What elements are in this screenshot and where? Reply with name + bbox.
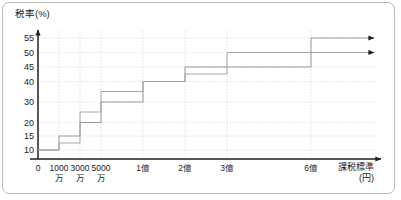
gridlines-horizontal [38, 38, 376, 150]
y-tick-40: 40 [18, 78, 34, 87]
x-tick-2oku-label: 2億 [178, 163, 192, 173]
x-axis-title-text: 課税標準 [338, 162, 374, 172]
x-tick-5000man-unit: 万 [86, 174, 116, 183]
x-tick-3oku: 3億 [213, 164, 241, 173]
axis-lines [30, 30, 381, 159]
x-tick-2oku: 2億 [171, 164, 199, 173]
x-tick-5000man-label: 5000 [92, 163, 111, 173]
y-tick-30: 30 [18, 98, 34, 107]
x-axis-unit: (円) [338, 174, 374, 183]
y-axis-title: 税率(%) [15, 9, 50, 19]
x-tick-6oku: 6億 [297, 164, 325, 173]
y-tick-55: 55 [18, 34, 34, 43]
y-tick-45: 45 [18, 63, 34, 72]
y-tick-15: 15 [18, 132, 34, 141]
x-tick-0: 0 [31, 164, 45, 173]
x-tick-6oku-label: 6億 [304, 163, 318, 173]
y-tick-10: 10 [18, 146, 34, 155]
series-upper-step [38, 38, 374, 150]
x-tick-1oku-label: 1億 [136, 163, 150, 173]
y-tick-50: 50 [18, 49, 34, 58]
x-tick-5000man: 5000 万 [86, 164, 116, 182]
x-tick-1oku: 1億 [129, 164, 157, 173]
x-axis-title: 課税標準 (円) [338, 163, 374, 183]
gridlines-vertical [59, 31, 311, 159]
x-tick-3oku-label: 3億 [220, 163, 234, 173]
x-tick-0-label: 0 [36, 163, 41, 173]
y-tick-20: 20 [18, 119, 34, 128]
